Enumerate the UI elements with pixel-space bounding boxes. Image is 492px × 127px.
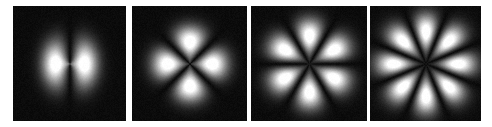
panel-4 xyxy=(370,6,481,121)
panel-3 xyxy=(251,6,367,121)
panel-2 xyxy=(132,6,247,121)
panel-1 xyxy=(13,6,126,121)
intensity-pattern-image xyxy=(370,6,481,121)
intensity-pattern-image xyxy=(251,6,367,121)
intensity-pattern-image xyxy=(13,6,126,121)
intensity-pattern-image xyxy=(132,6,247,121)
